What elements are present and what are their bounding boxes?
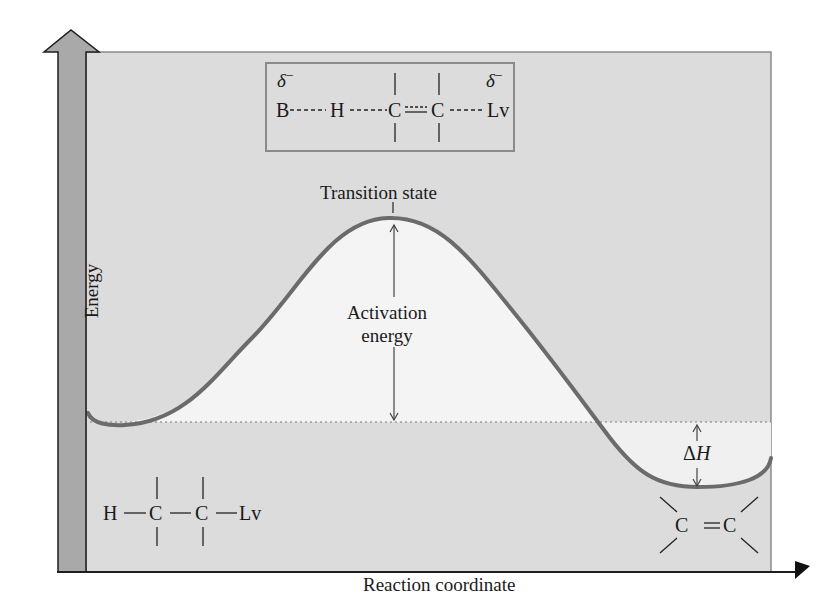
enthalpy-symbol: H (696, 442, 710, 464)
product-atom-c1: C (675, 514, 688, 537)
delta-symbol: Δ (683, 442, 696, 464)
activation-energy-label: Activation energy (345, 301, 429, 347)
activation-energy-line1: Activation (345, 301, 429, 324)
energy-diagram: Energy Reaction coordinate Transition st… (0, 0, 823, 614)
ts-atom-h: H (330, 99, 344, 122)
activation-energy-line2: energy (345, 324, 429, 347)
ts-atom-lv: Lv (487, 99, 509, 122)
reactant-atom-lv: Lv (239, 502, 261, 525)
reactant-atom-h: H (103, 502, 117, 525)
x-axis-label: Reaction coordinate (363, 575, 515, 594)
ts-atom-b: B (276, 99, 289, 122)
delta-h-label: ΔH (683, 443, 710, 463)
y-axis-label: Energy (81, 251, 103, 331)
partial-charge-right: δ− (486, 68, 503, 92)
ts-atom-c2: C (431, 99, 444, 122)
transition-state-label: Transition state (320, 183, 437, 202)
ts-atom-c1: C (388, 99, 401, 122)
partial-charge-left: δ− (277, 68, 294, 92)
x-axis-arrowhead-icon (795, 561, 810, 579)
reactant-atom-c2: C (195, 502, 208, 525)
product-atom-c2: C (723, 514, 736, 537)
reactant-atom-c1: C (149, 502, 162, 525)
